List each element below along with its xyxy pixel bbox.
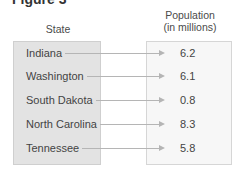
arrow-head-icon [159, 97, 165, 103]
mapping-row: Tennessee 5.8 [0, 140, 241, 156]
population-header-line1: Population [147, 9, 233, 21]
arrow-line [76, 148, 162, 149]
arrow-line [82, 76, 162, 77]
arrow-head-icon [159, 145, 165, 151]
arrow-head-icon [159, 121, 165, 127]
arrow-line [94, 124, 162, 125]
arrow-head-icon [159, 50, 165, 56]
figure-title: Figure 3 [12, 0, 66, 7]
state-label: South Dakota [26, 92, 96, 108]
population-value: 6.1 [180, 68, 195, 84]
population-value: 5.8 [180, 140, 195, 156]
state-label: Indiana [26, 45, 65, 61]
mapping-row: Indiana 6.2 [0, 45, 241, 61]
population-value: 6.2 [180, 45, 195, 61]
arrow-line [62, 53, 162, 54]
mapping-row: Washington 6.1 [0, 68, 241, 84]
population-column-header: Population (in millions) [147, 9, 233, 33]
arrow-line [90, 100, 162, 101]
population-value: 0.8 [180, 92, 195, 108]
state-label: Tennessee [26, 140, 82, 156]
arrow-head-icon [159, 73, 165, 79]
mapping-row: South Dakota 0.8 [0, 92, 241, 108]
state-column-header: State [14, 23, 102, 35]
population-value: 8.3 [180, 116, 195, 132]
mapping-row: North Carolina 8.3 [0, 116, 241, 132]
population-header-line2: (in millions) [147, 21, 233, 33]
state-label: North Carolina [26, 116, 100, 132]
state-label: Washington [26, 68, 87, 84]
